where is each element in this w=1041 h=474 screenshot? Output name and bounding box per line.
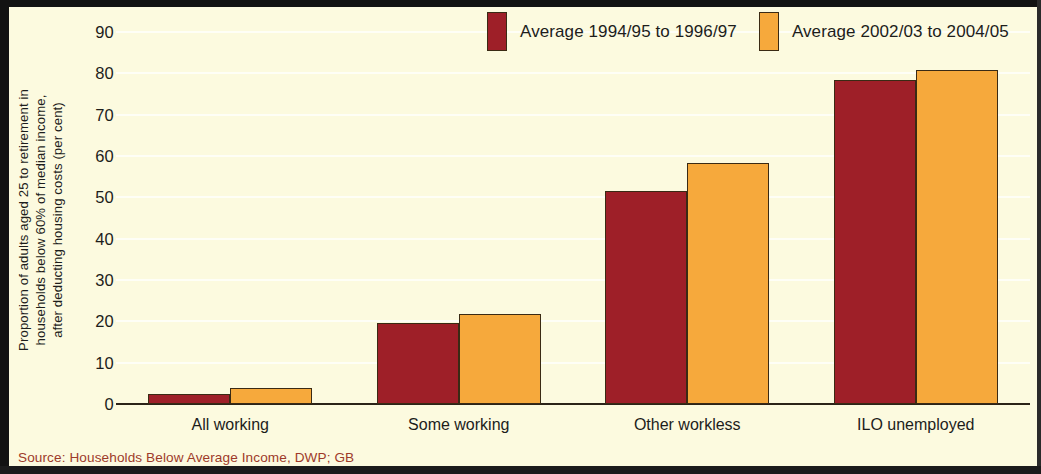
x-axis-label-ilo-unemployed: ILO unemployed bbox=[857, 416, 974, 434]
y-axis-tick-labels: 0102030405060708090 bbox=[52, 0, 114, 474]
bar-1-series-1 bbox=[148, 394, 230, 404]
y-axis-tick-80: 80 bbox=[54, 64, 114, 83]
figure-border-bottom bbox=[0, 466, 1041, 474]
x-axis-label-all-working: All working bbox=[192, 416, 269, 434]
y-axis-title-line-1: Proportion of adults aged 25 to retireme… bbox=[15, 89, 32, 351]
source-note: Source: Households Below Average Income,… bbox=[18, 450, 354, 465]
x-axis-label-other-workless: Other workless bbox=[634, 416, 741, 434]
bar-2-series-1 bbox=[377, 323, 459, 404]
y-axis-title-line-2: households below 60% of median income, bbox=[32, 89, 49, 351]
y-axis-tick-70: 70 bbox=[54, 105, 114, 124]
bar-2-series-2 bbox=[459, 314, 541, 404]
legend-item-series-1: Average 1994/95 to 1996/97 bbox=[487, 12, 737, 51]
chart-figure: Proportion of adults aged 25 to retireme… bbox=[0, 0, 1041, 474]
y-axis-tick-60: 60 bbox=[54, 147, 114, 166]
bar-3-series-1 bbox=[605, 191, 687, 404]
bar-3-series-2 bbox=[687, 163, 769, 404]
legend-label-series-1: Average 1994/95 to 1996/97 bbox=[520, 22, 737, 42]
figure-border-top bbox=[0, 0, 1041, 7]
chart-legend: Average 1994/95 to 1996/97 Average 2002/… bbox=[487, 12, 1009, 51]
y-axis-tick-30: 30 bbox=[54, 271, 114, 290]
bar-1-series-2 bbox=[230, 388, 312, 404]
legend-label-series-2: Average 2002/03 to 2004/05 bbox=[792, 22, 1009, 42]
y-axis-tick-40: 40 bbox=[54, 229, 114, 248]
figure-border-left bbox=[0, 0, 9, 474]
y-axis-tick-50: 50 bbox=[54, 188, 114, 207]
legend-swatch-icon-series-2 bbox=[759, 12, 779, 51]
legend-swatch-icon-series-1 bbox=[487, 12, 507, 51]
y-axis-tick-20: 20 bbox=[54, 312, 114, 331]
bar-4-series-2 bbox=[916, 70, 998, 404]
y-axis-tick-0: 0 bbox=[54, 395, 114, 414]
figure-border-right bbox=[1037, 0, 1041, 474]
y-axis-tick-10: 10 bbox=[54, 353, 114, 372]
x-axis-label-some-working: Some working bbox=[408, 416, 509, 434]
chart-plot-area bbox=[116, 20, 1030, 408]
legend-item-series-2: Average 2002/03 to 2004/05 bbox=[759, 12, 1009, 51]
bar-4-series-1 bbox=[834, 80, 916, 404]
y-axis-tick-90: 90 bbox=[54, 23, 114, 42]
